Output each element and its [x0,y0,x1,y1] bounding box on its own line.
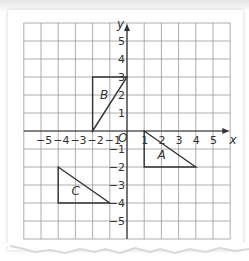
x-axis-arrow-icon [222,128,229,134]
x-tick-label: 5 [210,134,217,147]
x-tick-label: 3 [176,134,183,147]
y-tick-label: −2 [109,161,125,174]
x-tick-label: 4 [193,134,200,147]
shape-label-c: C [71,184,80,198]
y-tick-label: 1 [118,107,125,120]
x-tick-label: −2 [88,134,104,147]
y-tick-label: −5 [109,215,125,228]
shape-label-a: A [156,148,165,162]
y-tick-label: −1 [109,143,125,156]
x-tick-label: −5 [36,134,52,147]
y-tick-label: 4 [118,53,125,66]
x-axis-label: x [228,133,237,147]
y-tick-label: −3 [109,179,125,192]
shape-label-b: B [100,88,108,102]
y-axis-arrow-icon [124,24,130,31]
coordinate-grid: xyO−5−4−3−2−11234554321−1−2−3−4−5ABC [0,0,249,261]
y-axis-label: y [116,17,125,31]
y-tick-label: 5 [118,35,125,48]
x-tick-label: −4 [53,134,69,147]
x-tick-label: −3 [70,134,86,147]
y-tick-label: 2 [118,89,125,102]
